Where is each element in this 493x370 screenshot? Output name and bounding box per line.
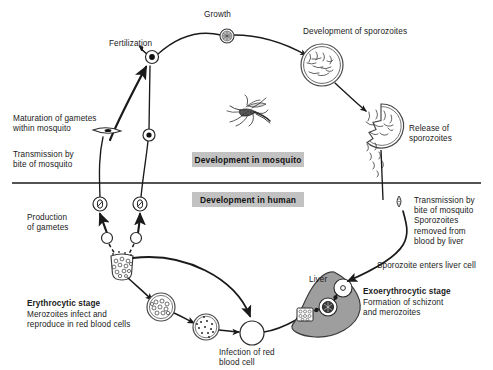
- merozoite-cell-right: [131, 233, 142, 244]
- label-release-of-sporozoites: Release of sporozoites: [409, 124, 452, 144]
- label-liver: Liver: [309, 275, 327, 285]
- uninfected-red-blood-cell: [240, 321, 264, 345]
- gametocyte-cell-left: [93, 197, 107, 211]
- merozoite-cell-left: [102, 233, 113, 244]
- malaria-life-cycle-diagram: Growth Fertilization Development of spor…: [0, 0, 493, 370]
- label-growth: Growth: [204, 10, 231, 20]
- label-infection-of-red-blood-cell: Infection of red blood cell: [219, 348, 275, 368]
- trophozoite-in-red-blood-cell: [193, 314, 219, 340]
- label-production-of-gametes: Production of gametes: [27, 213, 69, 233]
- label-sporozoite-enters-liver-cell: Sporozoite enters liver cell: [377, 261, 476, 271]
- ookinete-cell: [93, 128, 121, 134]
- mosquito-illustration: [227, 95, 270, 126]
- label-erythrocytic-stage: Erythrocytic stage: [27, 299, 100, 309]
- band-development-in-mosquito: Development in mosquito: [192, 152, 304, 167]
- label-maturation-of-gametes: Maturation of gametes within mosquito: [13, 114, 97, 134]
- band-development-in-human: Development in human: [192, 192, 304, 207]
- ruptured-red-blood-cell: [111, 251, 133, 280]
- gametocyte-cell-right: [133, 197, 147, 211]
- fertilization-zygote-cell: [146, 51, 159, 64]
- label-transmission-by-bite-left: Transmission by bite of mosquito: [13, 150, 74, 170]
- label-development-of-sporozoites: Development of sporozoites: [303, 27, 407, 37]
- label-exoerythrocytic-stage: Exoerythrocytic stage: [363, 287, 451, 297]
- label-fertilization: Fertilization: [109, 39, 152, 49]
- liver-merozoite-packet: [297, 308, 313, 321]
- oocyst-with-sporozoites: [301, 44, 343, 86]
- label-exoerythrocytic-stage-description: Formation of schizont and merozoites: [363, 298, 443, 318]
- oocyst-growth-cell: [220, 29, 234, 43]
- schizont-in-red-blood-cell: [147, 293, 175, 321]
- male-gamete-cell: [143, 129, 155, 141]
- ruptured-oocyst-releasing-sporozoites: [366, 104, 404, 200]
- gametocyte-formation-arrows: [100, 214, 140, 233]
- label-erythrocytic-stage-description: Merozoites infect and reproduce in red b…: [27, 310, 130, 330]
- sporozoite-glyph: [397, 196, 401, 207]
- label-transmission-by-bite-right: Transmission by bite of mosquito Sporozo…: [414, 196, 475, 247]
